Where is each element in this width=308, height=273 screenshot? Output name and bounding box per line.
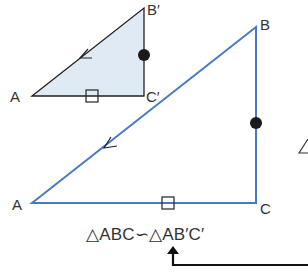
large-label-c: C [260,201,271,216]
arrow-line [173,252,308,265]
large-label-b: B [260,17,270,32]
large-dot-mark-icon [250,117,262,129]
small-triangle [32,8,144,96]
partial-angle-symbol-icon [299,139,308,153]
small-dot-mark-icon [138,49,150,61]
small-label-c-prime: C′ [146,89,160,104]
similarity-relation: △ABC∽△AB′C′ [86,226,204,243]
arrow-head-icon [167,246,179,254]
small-label-b-prime: B′ [147,2,160,17]
large-label-a: A [12,197,22,212]
small-label-a: A [10,89,20,104]
